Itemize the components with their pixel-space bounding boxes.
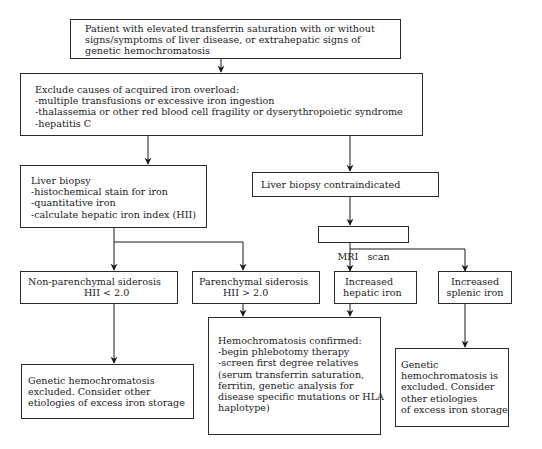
- parenchymal-box: Parenchymal siderosis HII > 2.0: [192, 271, 320, 304]
- splenic-iron-label: splenic iron: [439, 287, 511, 298]
- hii-threshold: HII < 2.0: [28, 287, 177, 298]
- liver-biopsy-box: Liver biopsy -histochemical stain for ir…: [20, 165, 207, 228]
- liver-biopsy-line: Liver biopsy: [31, 175, 206, 186]
- hemochromatosis-confirmed-box: Hemochromatosis confirmed: -begin phlebo…: [208, 317, 381, 435]
- exclude-line: -hepatitis C: [35, 118, 422, 129]
- hepatic-iron-label: Increased: [343, 276, 416, 287]
- start-line: genetic hemochromatosis: [85, 45, 400, 56]
- confirmed-line: Hemochromatosis confirmed:: [218, 335, 380, 346]
- non-parenchymal-box: Non-parenchymal siderosis HII < 2.0: [20, 271, 178, 304]
- start-box: Patient with elevated transferrin satura…: [70, 19, 401, 59]
- liver-biopsy-line: -histochemical stain for iron: [31, 186, 206, 197]
- excluded-left-line: excluded. Consider other: [28, 386, 193, 397]
- exclude-causes-box: Exclude causes of acquired iron overload…: [20, 73, 423, 136]
- splenic-iron-label: Increased: [439, 276, 511, 287]
- excluded-left-box: Genetic hemochromatosis excluded. Consid…: [21, 364, 194, 419]
- hepatic-iron-box: Increased hepatic iron: [334, 271, 417, 304]
- parenchymal-label: Parenchymal siderosis: [199, 276, 319, 287]
- confirmed-line: ferritin, genetic analysis for: [218, 380, 380, 391]
- excluded-right-line: hemochromatosis is: [401, 370, 508, 381]
- hii-threshold: HII > 2.0: [199, 287, 319, 298]
- excluded-right-line: Genetic: [401, 359, 508, 370]
- hepatic-iron-label: hepatic iron: [343, 287, 416, 298]
- excluded-left-line: etiologies of excess iron storage: [28, 397, 193, 408]
- exclude-line: -multiple transfusions or excessive iron…: [35, 95, 422, 106]
- contraindicated-label: Liver biopsy contraindicated: [261, 179, 438, 190]
- excluded-left-line: Genetic hemochromatosis: [28, 375, 193, 386]
- exclude-line: -thalassemia or other red blood cell fra…: [35, 106, 422, 117]
- confirmed-line: -screen first degree relatives: [218, 357, 380, 368]
- confirmed-line: haplotype): [218, 402, 380, 413]
- confirmed-line: -begin phlebotomy therapy: [218, 346, 380, 357]
- non-parenchymal-label: Non-parenchymal siderosis: [28, 276, 177, 287]
- liver-biopsy-line: -calculate hepatic iron index (HII): [31, 209, 206, 220]
- exclude-line: Exclude causes of acquired iron overload…: [35, 84, 422, 95]
- start-line: signs/symptoms of liver disease, or extr…: [85, 34, 400, 45]
- excluded-right-line: of excess iron storage: [401, 404, 508, 415]
- excluded-right-line: other etiologies: [401, 393, 508, 404]
- mri-label: MRI scan: [319, 251, 408, 262]
- liver-biopsy-line: -quantitative iron: [31, 197, 206, 208]
- mri-scan-box: MRI scan: [318, 226, 409, 243]
- biopsy-contraindicated-box: Liver biopsy contraindicated: [252, 172, 439, 197]
- confirmed-line: (serum transferrin saturation,: [218, 369, 380, 380]
- excluded-right-line: excluded. Consider: [401, 381, 508, 392]
- splenic-iron-box: Increased splenic iron: [438, 271, 512, 304]
- start-line: Patient with elevated transferrin satura…: [85, 23, 400, 34]
- confirmed-line: disease specific mutations or HLA: [218, 391, 380, 402]
- excluded-right-box: Genetic hemochromatosis is excluded. Con…: [395, 348, 509, 427]
